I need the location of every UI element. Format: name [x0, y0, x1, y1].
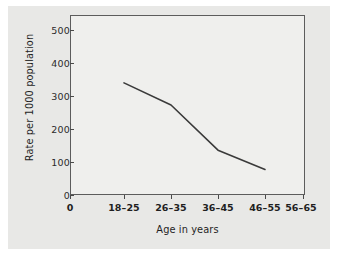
y-tick-label-400: 400 — [36, 58, 70, 69]
x-tick-mark-56-65 — [303, 195, 304, 199]
y-axis-label: Rate per 1000 population — [24, 23, 35, 173]
x-axis-label: Age in years — [70, 224, 305, 235]
y-tick-label-0: 0 — [36, 190, 70, 201]
y-tick-mark-300 — [70, 96, 74, 97]
x-tick-mark-18-25 — [124, 195, 125, 199]
x-tick-mark-36-45 — [218, 195, 219, 199]
x-tick-mark-26-35 — [171, 195, 172, 199]
y-tick-mark-200 — [70, 129, 74, 130]
y-tick-label-100: 100 — [36, 157, 70, 168]
y-tick-mark-100 — [70, 162, 74, 163]
y-tick-mark-500 — [70, 30, 74, 31]
y-tick-label-200: 200 — [36, 124, 70, 135]
y-tick-label-500: 500 — [36, 25, 70, 36]
x-tick-mark-0 — [70, 195, 71, 199]
chart-figure: 0 100 200 300 400 500 Rate per 1000 popu… — [8, 6, 330, 249]
line-series-rate-per-1000-population — [70, 15, 305, 195]
data-line — [124, 83, 265, 170]
x-tick-label-0: 0 — [42, 202, 98, 213]
x-tick-label-56-65: 56–65 — [273, 202, 329, 213]
y-tick-label-300: 300 — [36, 91, 70, 102]
y-tick-mark-400 — [70, 63, 74, 64]
x-tick-mark-46-55 — [265, 195, 266, 199]
